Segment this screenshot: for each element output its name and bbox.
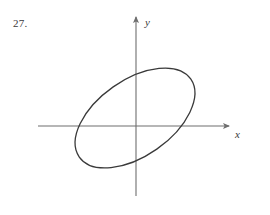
x-axis-label: x bbox=[234, 128, 240, 140]
axes-group bbox=[38, 17, 229, 196]
coordinate-plane-figure: x y bbox=[0, 0, 270, 215]
figure-page: 27. x y bbox=[0, 0, 270, 215]
y-axis-label: y bbox=[144, 16, 150, 28]
curve-group bbox=[58, 48, 213, 188]
ellipse-curve bbox=[58, 48, 213, 188]
